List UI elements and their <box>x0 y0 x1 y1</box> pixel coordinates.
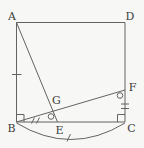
label-C: C <box>127 122 135 135</box>
geometry-diagram: A D B C E F G <box>0 0 144 148</box>
label-G: G <box>52 94 61 107</box>
figure-svg: A D B C E F G <box>0 0 144 148</box>
label-B: B <box>7 122 15 135</box>
label-D: D <box>126 10 135 23</box>
label-F: F <box>129 81 137 94</box>
label-A: A <box>7 10 17 23</box>
label-E: E <box>55 124 63 137</box>
